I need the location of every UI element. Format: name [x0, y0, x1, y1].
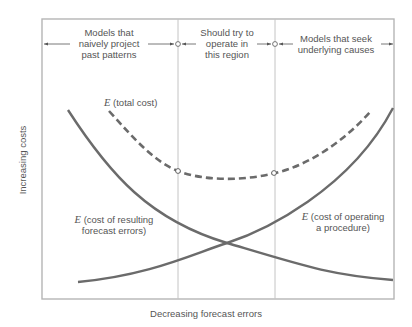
region-label-operate-here: Should try to operate in this region: [194, 27, 260, 60]
region-label-line: naively project: [70, 38, 148, 49]
operating-cost-curve: [78, 108, 393, 282]
region-label-line: past patterns: [70, 49, 148, 60]
region-label-causal-models: Models that seek underlying causes: [291, 33, 381, 55]
curve-label-text: (total cost): [110, 97, 157, 108]
region-label-line: this region: [194, 49, 260, 60]
curve-label-text: (cost of resulting: [81, 214, 153, 225]
region-label-line: Should try to: [194, 27, 260, 38]
region-label-line: Models that: [70, 27, 148, 38]
region-boundary-marker-left: [176, 42, 181, 47]
operating-cost-label: E (cost of operating a procedure): [296, 211, 390, 233]
plot-frame: [42, 19, 394, 299]
curve-label-text: forecast errors): [70, 225, 158, 236]
y-axis-label: Increasing costs: [17, 126, 28, 195]
curve-label-text: (cost of operating: [308, 211, 384, 222]
region-label-naive-models: Models that naively project past pattern…: [70, 27, 148, 60]
total-cost-marker-left: [176, 169, 181, 174]
total-cost-marker-right: [272, 171, 277, 176]
region-label-line: Models that seek: [291, 33, 381, 44]
curve-label-text: a procedure): [296, 222, 390, 233]
forecast-error-cost-label: E (cost of resulting forecast errors): [70, 214, 158, 236]
region-label-line: underlying causes: [291, 44, 381, 55]
region-boundary-marker-right: [273, 42, 278, 47]
region-label-line: operate in: [194, 38, 260, 49]
total-cost-curve: [109, 111, 370, 179]
total-cost-label: E (total cost): [104, 97, 157, 108]
x-axis-label: Decreasing forecast errors: [0, 308, 412, 319]
